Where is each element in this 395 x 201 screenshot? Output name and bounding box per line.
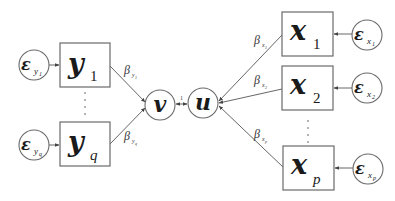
beta-subsub: 1 (135, 75, 137, 80)
eps-subsub: p (372, 175, 376, 181)
beta-label-x1: β x 1 (253, 33, 267, 50)
eps-sub: y (33, 146, 38, 156)
beta-symbol: β (253, 127, 260, 141)
eps-subsub: 1 (39, 71, 42, 77)
observed-node-yq: y q (60, 122, 110, 166)
eps-sub: x (366, 89, 371, 99)
beta-subsub: q (135, 141, 137, 146)
error-node-eps-y1: ε y 1 (19, 50, 49, 80)
eps-symbol: ε (354, 78, 364, 97)
path-diagram: ε y 1 ε y q y 1 y q β y 1 β y q 1 (0, 0, 395, 201)
node-label-main: x (289, 15, 307, 46)
node-label-sub: 2 (313, 90, 321, 106)
eps-sub: x (366, 36, 371, 46)
edge-xp-to-u (219, 106, 283, 167)
observed-node-y1: y 1 (60, 43, 110, 87)
beta-label-xp: β x p (253, 127, 267, 144)
ellipsis-y (84, 92, 86, 115)
beta-subsub: 2 (265, 85, 267, 90)
eps-symbol: ε (355, 159, 365, 178)
eps-symbol: ε (354, 25, 364, 44)
latent-label-v: v (154, 91, 167, 117)
error-node-eps-xp: ε x p (353, 154, 383, 184)
diagram-svg: ε y 1 ε y q y 1 y q β y 1 β y q 1 (0, 0, 395, 201)
node-label-sub: q (90, 147, 98, 163)
node-label-sub: p (312, 171, 321, 187)
eps-subsub: 2 (372, 94, 375, 100)
observed-node-x1: x 1 (282, 12, 333, 56)
observed-node-xp: x p (283, 146, 334, 190)
eps-sub: x (367, 170, 372, 180)
node-label-sub: 1 (313, 36, 321, 52)
beta-subsub: 1 (265, 45, 267, 50)
latent-node-v: v (145, 90, 175, 120)
node-label-main: x (290, 149, 308, 180)
observed-node-x2: x 2 (282, 66, 333, 110)
node-label-main: y (67, 48, 86, 79)
beta-label-y1: β y 1 (123, 63, 137, 80)
beta-symbol: β (123, 129, 130, 143)
error-node-eps-yq: ε y q (19, 130, 49, 160)
node-label-main: x (289, 69, 307, 100)
error-node-eps-x2: ε x 2 (352, 73, 382, 103)
link-label-one: 1 (180, 95, 183, 101)
error-node-eps-x1: ε x 1 (352, 20, 382, 50)
beta-symbol: β (123, 63, 130, 77)
beta-symbol: β (253, 73, 260, 87)
latent-node-u: u (188, 88, 218, 118)
eps-symbol: ε (21, 135, 31, 154)
latent-label-u: u (195, 89, 211, 115)
eps-subsub: q (39, 151, 42, 157)
beta-label-yq: β y q (123, 129, 137, 146)
beta-label-x2: β x 2 (253, 73, 267, 90)
eps-symbol: ε (21, 55, 31, 74)
beta-symbol: β (253, 33, 260, 47)
eps-sub: y (33, 66, 38, 76)
node-label-main: y (67, 126, 86, 157)
eps-subsub: 1 (372, 41, 375, 47)
node-label-sub: 1 (90, 68, 98, 84)
ellipsis-x (307, 120, 309, 143)
beta-subsub: p (264, 139, 267, 144)
